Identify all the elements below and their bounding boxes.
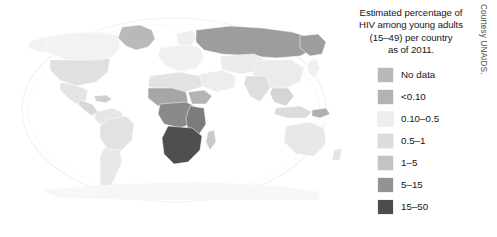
world-map-panel [0, 0, 348, 237]
credit-text: Courtesy UNAIDS. [479, 4, 488, 75]
region-russia [196, 26, 316, 58]
region-new-guinea [312, 108, 330, 118]
legend-entry-0-5-to-1: 0.5–1 [350, 130, 472, 152]
legend-swatch-no-data [378, 68, 393, 82]
region-antarctica [40, 182, 320, 200]
legend-swatch-1-to-5 [378, 156, 393, 170]
legend-title-line-1: Estimated percentage of [350, 7, 472, 19]
region-new-zealand [332, 148, 342, 160]
legend-entry-no-data: No data [350, 64, 472, 86]
hiv-prevalence-map-figure: Estimated percentage of HIV among young … [0, 0, 497, 237]
region-middle-east [200, 70, 236, 92]
world-map-graphic [0, 0, 348, 237]
legend-entry-15-to-50: 15–50 [350, 196, 472, 218]
legend-title-line-2: HIV among young adults [350, 19, 472, 31]
legend-swatch-0-10-to-0-5 [378, 112, 393, 126]
region-europe [158, 44, 204, 72]
legend-label-no-data: No data [401, 69, 435, 80]
legend-label-15-to-50: 15–50 [401, 201, 428, 212]
legend-label-0-5-to-1: 0.5–1 [401, 135, 426, 146]
region-horn-of-africa [188, 90, 212, 104]
legend-label-5-to-15: 5–15 [401, 179, 423, 190]
region-central-america [78, 100, 98, 116]
region-australia [284, 122, 326, 156]
legend-swatch-5-to-15 [378, 178, 393, 192]
region-japan [308, 58, 320, 78]
legend-entry-0-10-to-0-5: 0.10–0.5 [350, 108, 472, 130]
legend-swatch-lt-0-10 [378, 90, 393, 104]
legend-entry-5-to-15: 5–15 [350, 174, 472, 196]
legend-title-line-3: (15–49) per country [350, 32, 472, 44]
credit-block: Courtesy UNAIDS. [472, 4, 494, 124]
legend-entry-lt-0-10: <0.10 [350, 86, 472, 108]
region-madagascar [206, 130, 216, 150]
legend-swatch-15-to-50 [378, 200, 393, 214]
legend-label-1-to-5: 1–5 [401, 157, 417, 168]
region-indonesia [274, 106, 312, 118]
legend-label-0-10-to-0-5: 0.10–0.5 [401, 113, 439, 124]
region-united-states [50, 58, 110, 86]
legend-panel: Estimated percentage of HIV among young … [350, 4, 472, 234]
legend-swatch-0-5-to-1 [378, 134, 393, 148]
region-southeast-asia [270, 88, 294, 106]
region-scandinavia [176, 30, 198, 46]
countries-group [28, 25, 342, 200]
region-caribbean [94, 95, 112, 103]
region-india [244, 76, 270, 102]
legend-label-lt-0-10: <0.10 [401, 91, 426, 102]
legend-entry-1-to-5: 1–5 [350, 152, 472, 174]
region-greenland [118, 25, 155, 50]
region-southern-africa [162, 126, 202, 164]
legend-title-line-4: as of 2011. [350, 44, 472, 56]
region-canada [46, 32, 120, 61]
region-mexico [60, 82, 88, 104]
legend-title: Estimated percentage of HIV among young … [350, 7, 472, 57]
legend-entry-list: No data <0.10 0.10–0.5 0.5–1 1–5 5–15 [350, 64, 472, 218]
